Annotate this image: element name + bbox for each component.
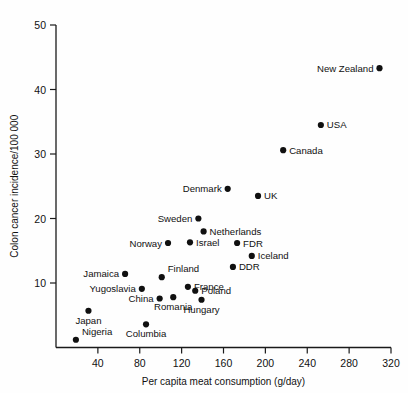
- y-tick-label: 40: [34, 84, 46, 96]
- point-marker: [159, 274, 165, 280]
- point-label: Netherlands: [210, 226, 262, 237]
- point-label: FDR: [243, 238, 263, 249]
- y-tick-label: 50: [34, 19, 46, 31]
- point-label: Israel: [196, 237, 219, 248]
- point-marker: [255, 193, 261, 199]
- x-tick-label: 160: [215, 357, 233, 369]
- x-axis-title: Per capita meat consumption (g/day): [142, 376, 305, 387]
- point-marker: [249, 253, 255, 259]
- point-label: New Zealand: [317, 63, 374, 74]
- point-marker: [234, 240, 240, 246]
- data-point: Canada: [280, 145, 323, 156]
- point-marker: [165, 240, 171, 246]
- point-marker: [376, 65, 382, 71]
- point-marker: [318, 122, 324, 128]
- point-label: Norway: [129, 238, 162, 249]
- point-label: Sweden: [158, 213, 193, 224]
- data-point: FDR: [234, 238, 263, 249]
- point-label: Columbia: [126, 328, 167, 339]
- point-marker: [201, 228, 207, 234]
- point-label: UK: [264, 190, 278, 201]
- point-marker: [195, 215, 201, 221]
- data-point: Jamaica: [83, 268, 128, 279]
- point-marker: [139, 286, 145, 292]
- data-point: Nigeria: [73, 326, 113, 343]
- y-tick-label: 30: [34, 148, 46, 160]
- data-point: USA: [318, 119, 347, 130]
- x-tick-label: 320: [382, 357, 400, 369]
- data-point: Norway: [129, 238, 171, 249]
- point-label: USA: [327, 119, 347, 130]
- point-label: Jamaica: [83, 268, 119, 279]
- data-point: Iceland: [249, 250, 289, 261]
- scatter-chart: 10203040504080120160200240280320 New Zea…: [0, 0, 408, 393]
- data-point: UK: [255, 190, 278, 201]
- point-marker: [73, 337, 79, 343]
- x-tick-label: 120: [173, 357, 191, 369]
- point-marker: [280, 147, 286, 153]
- x-tick-label: 80: [134, 357, 146, 369]
- point-label: Denmark: [183, 183, 222, 194]
- point-label: DDR: [239, 261, 260, 272]
- point-marker: [225, 186, 231, 192]
- point-marker: [122, 271, 128, 277]
- data-point: Netherlands: [201, 226, 262, 237]
- point-label: Hungary: [183, 304, 219, 315]
- point-label: China: [129, 293, 155, 304]
- data-point: Japan: [75, 308, 101, 326]
- x-tick-label: 200: [257, 357, 275, 369]
- data-point: Sweden: [158, 213, 202, 224]
- data-points: New ZealandUSACanadaDenmarkUKSwedenNethe…: [73, 63, 383, 343]
- y-axis-title: Colon cancer incidence/100 000: [9, 114, 20, 257]
- point-marker: [198, 297, 204, 303]
- x-tick-label: 280: [340, 357, 358, 369]
- chart-canvas: 10203040504080120160200240280320 New Zea…: [0, 0, 408, 393]
- data-point: New Zealand: [317, 63, 383, 74]
- point-label: Poland: [201, 285, 231, 296]
- point-marker: [170, 294, 176, 300]
- point-label: Finland: [168, 263, 199, 274]
- y-tick-label: 20: [34, 213, 46, 225]
- point-marker: [185, 284, 191, 290]
- data-point: Hungary: [183, 297, 219, 315]
- point-label: Japan: [75, 315, 101, 326]
- x-tick-label: 240: [298, 357, 316, 369]
- point-marker: [230, 264, 236, 270]
- point-marker: [187, 239, 193, 245]
- point-marker: [192, 288, 198, 294]
- data-point: Israel: [187, 237, 220, 248]
- point-label: Iceland: [258, 250, 289, 261]
- data-point: Denmark: [183, 183, 231, 194]
- y-tick-label: 10: [34, 277, 46, 289]
- data-point: Finland: [159, 263, 200, 280]
- data-point: Columbia: [126, 321, 167, 339]
- point-marker: [85, 308, 91, 314]
- data-point: DDR: [230, 261, 260, 272]
- point-label: Nigeria: [82, 326, 113, 337]
- x-tick-label: 40: [92, 357, 104, 369]
- point-label: Canada: [289, 145, 323, 156]
- point-marker: [143, 321, 149, 327]
